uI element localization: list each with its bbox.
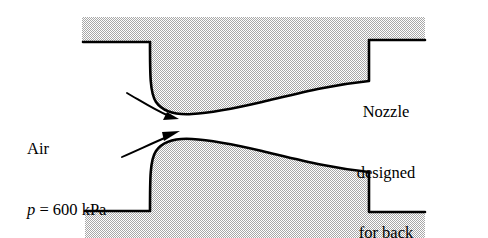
inlet-pressure-label: p = 600 kPa bbox=[27, 200, 106, 220]
nozzle-figure: Air p = 600 kPa T = 40°C Nozzle designed… bbox=[0, 0, 488, 238]
nozzle-description-line-1: Nozzle bbox=[350, 102, 423, 122]
pressure-symbol: p bbox=[27, 200, 35, 219]
nozzle-description-line-2: designed bbox=[350, 163, 423, 183]
nozzle-description-line-3: for back bbox=[350, 223, 423, 238]
inlet-conditions-label: Air p = 600 kPa T = 40°C bbox=[27, 99, 106, 238]
pressure-equals: = bbox=[35, 200, 53, 219]
nozzle-description-label: Nozzle designed for back pressure of 100… bbox=[350, 62, 423, 238]
inlet-fluid-label: Air bbox=[27, 139, 106, 159]
pressure-value: 600 kPa bbox=[53, 200, 107, 219]
